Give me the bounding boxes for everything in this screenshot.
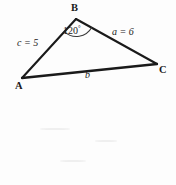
scan-speck <box>60 160 86 162</box>
side-label-a: a = 6 <box>112 27 134 37</box>
side-label-b: b <box>85 70 90 80</box>
vertex-label-b: B <box>71 3 78 14</box>
scan-speck <box>40 128 70 130</box>
degree-symbol-icon: ° <box>78 24 81 31</box>
angle-value: 120 <box>63 25 78 36</box>
geometry-figure: B A C c = 5 a = 6 b 120° <box>0 0 176 185</box>
angle-label-b: 120° <box>63 25 81 36</box>
scan-speck <box>95 140 117 142</box>
triangle-drawing <box>0 0 176 185</box>
side-label-c: c = 5 <box>17 38 38 48</box>
vertex-label-c: C <box>159 65 167 76</box>
vertex-label-a: A <box>15 81 23 92</box>
